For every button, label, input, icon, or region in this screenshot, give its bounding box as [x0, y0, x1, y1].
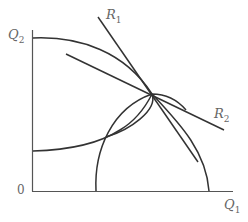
x-axis-label-main: Q — [224, 197, 235, 212]
inner-arch-curve — [96, 94, 186, 191]
ray-r2-label-main: R — [214, 106, 224, 121]
lens-loop-curve — [106, 94, 153, 137]
x-axis-label-sub: 1 — [235, 205, 241, 215]
ray-r2 — [66, 54, 224, 130]
ray-r2-label-sub: 2 — [224, 114, 230, 124]
ray-r1-label-sub: 1 — [116, 15, 122, 25]
y-axis-label: Q2 — [8, 28, 24, 45]
ray-r2-label: R2 — [214, 107, 230, 124]
y-axis-label-main: Q — [8, 27, 19, 42]
ray-r1 — [98, 17, 198, 162]
origin-label: 0 — [17, 184, 25, 196]
diagram-canvas — [0, 0, 248, 222]
x-axis-label: Q1 — [224, 198, 240, 215]
ray-r1-label: R1 — [106, 8, 122, 25]
ray-r1-label-main: R — [106, 7, 116, 22]
y-axis-label-sub: 2 — [19, 35, 25, 45]
